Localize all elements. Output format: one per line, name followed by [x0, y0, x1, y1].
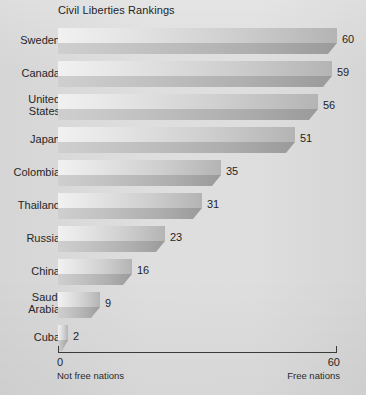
- bar-category-label: Russia: [0, 233, 60, 245]
- bar-row: Sweden 60: [0, 26, 366, 59]
- bar-graphic[interactable]: [58, 259, 132, 285]
- bar-top-face: [58, 193, 202, 208]
- bar-row: China 16: [0, 257, 366, 290]
- bar-row: United States 56: [0, 92, 366, 125]
- bar-category-label: Thailand: [0, 200, 60, 212]
- bar-value-label: 56: [323, 99, 335, 111]
- bar-bottom-face: [58, 274, 132, 285]
- bar-graphic[interactable]: [58, 226, 165, 252]
- bar-value-label: 59: [337, 66, 349, 78]
- x-axis-min-group: 0 Not free nations: [57, 356, 124, 381]
- bar-graphic[interactable]: [58, 193, 202, 219]
- bar-value-label: 9: [105, 297, 111, 309]
- x-axis-min-value: 0: [57, 356, 124, 368]
- bar-category-label: United States: [0, 94, 60, 117]
- x-axis-max-value: 60: [287, 356, 340, 368]
- x-axis-line: [58, 352, 337, 353]
- bar-value-label: 51: [300, 132, 312, 144]
- bar-value-label: 31: [207, 198, 219, 210]
- bar-top-face: [58, 226, 165, 241]
- bar-top-face: [58, 160, 221, 175]
- bar-bottom-face: [58, 76, 332, 87]
- bar-graphic[interactable]: [58, 325, 68, 351]
- bar-bottom-face: [58, 340, 68, 351]
- bar-value-label: 16: [137, 264, 149, 276]
- bar-top-face: [58, 259, 132, 274]
- bar-row: Japan 51: [0, 125, 366, 158]
- bar-bottom-face: [58, 109, 318, 120]
- x-axis-max-caption: Free nations: [287, 370, 340, 381]
- bar-value-label: 2: [73, 330, 79, 342]
- bar-category-label: Colombia: [0, 167, 60, 179]
- bar-top-face: [58, 28, 337, 43]
- bar-category-label: China: [0, 266, 60, 278]
- bar-category-label: Japan: [0, 134, 60, 146]
- bar-bottom-face: [58, 175, 221, 186]
- bar-graphic[interactable]: [58, 160, 221, 186]
- bar-bottom-face: [58, 43, 337, 54]
- bar-row: Canada 59: [0, 59, 366, 92]
- bar-category-label: Cuba: [0, 332, 60, 344]
- bar-top-face: [58, 94, 318, 109]
- bar-row: Thailand 31: [0, 191, 366, 224]
- bar-top-face: [58, 127, 295, 142]
- bar-category-label: Saudi Arabia: [0, 292, 60, 315]
- bar-row: Saudi Arabia 9: [0, 290, 366, 323]
- bar-graphic[interactable]: [58, 127, 295, 153]
- chart-root: Civil Liberties Rankings Sweden 60 Canad…: [0, 0, 366, 395]
- bar-top-face: [58, 61, 332, 76]
- bar-top-face: [58, 325, 68, 340]
- bar-bottom-face: [58, 208, 202, 219]
- x-axis-min-caption: Not free nations: [57, 370, 124, 381]
- bar-row: Colombia 35: [0, 158, 366, 191]
- x-axis-tick-min: [58, 346, 59, 353]
- x-axis-tick-max: [336, 346, 337, 353]
- bar-graphic[interactable]: [58, 292, 100, 318]
- chart-title: Civil Liberties Rankings: [58, 4, 175, 16]
- bar-value-label: 23: [170, 231, 182, 243]
- bar-bottom-face: [58, 142, 295, 153]
- bar-category-label: Canada: [0, 68, 60, 80]
- bar-top-face: [58, 292, 100, 307]
- bar-graphic[interactable]: [58, 61, 332, 87]
- bar-value-label: 35: [226, 165, 238, 177]
- bar-bottom-face: [58, 307, 100, 318]
- bar-row: Russia 23: [0, 224, 366, 257]
- bar-category-label: Sweden: [0, 35, 60, 47]
- bar-chart-plot-area: Sweden 60 Canada 59 United States 56: [0, 26, 366, 348]
- bar-graphic[interactable]: [58, 28, 337, 54]
- bar-bottom-face: [58, 241, 165, 252]
- bar-graphic[interactable]: [58, 94, 318, 120]
- x-axis-max-group: 60 Free nations: [287, 356, 340, 381]
- bar-value-label: 60: [342, 33, 354, 45]
